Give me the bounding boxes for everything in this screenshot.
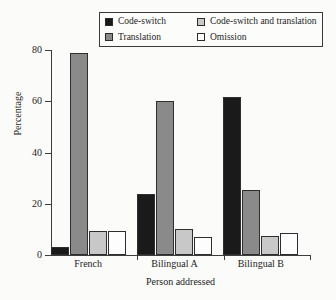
legend-item-code-switch: Code-switch [105, 17, 197, 27]
bar [194, 237, 212, 255]
x-tick-label: Bilingual A [151, 259, 197, 269]
bar [108, 231, 126, 255]
y-axis-label: Percentage [12, 59, 23, 169]
x-axis-label: Person addressed [51, 276, 310, 287]
bar [280, 233, 298, 255]
bar [70, 53, 88, 255]
plot-area [51, 50, 310, 255]
bar [156, 101, 174, 255]
legend-label-code-switch: Code-switch [118, 17, 166, 27]
legend-grid: Code-switch Code-switch and translation … [100, 13, 322, 46]
bar-chart-figure: Code-switch Code-switch and translation … [0, 0, 336, 300]
legend-item-code-switch-and-translation: Code-switch and translation [197, 17, 329, 27]
legend-label-translation: Translation [118, 33, 161, 43]
legend-swatch-icon-code-switch [105, 18, 113, 26]
bar [261, 236, 279, 255]
chart-legend: Code-switch Code-switch and translation … [99, 12, 323, 47]
x-tick-mark [137, 255, 138, 260]
bar [51, 247, 69, 255]
y-tick-label: 80 [2, 45, 42, 55]
x-tick-mark [310, 255, 311, 260]
x-axis-line [51, 255, 310, 256]
x-tick-label: Bilingual B [238, 259, 284, 269]
legend-item-translation: Translation [105, 33, 197, 43]
legend-swatch-icon-code-switch-and-translation [197, 18, 205, 26]
bar [175, 229, 193, 255]
legend-label-code-switch-and-translation: Code-switch and translation [210, 17, 317, 27]
y-tick-label: 0 [2, 250, 42, 260]
x-tick-label: French [74, 259, 102, 269]
y-tick-label: 20 [2, 199, 42, 209]
legend-swatch-icon-omission [197, 33, 205, 41]
legend-swatch-icon-translation [105, 33, 113, 41]
legend-label-omission: Omission [210, 33, 246, 43]
bar [137, 194, 155, 256]
bar [242, 190, 260, 255]
legend-item-omission: Omission [197, 33, 329, 43]
y-tick-mark [45, 255, 51, 256]
bar [89, 231, 107, 255]
x-tick-mark [224, 255, 225, 260]
bar [223, 97, 241, 255]
